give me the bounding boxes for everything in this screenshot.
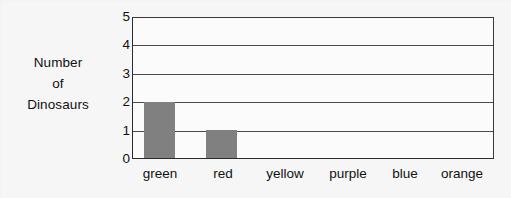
y-tick-label-1: 1 <box>106 124 130 138</box>
gridline-2 <box>133 102 493 103</box>
bar-red <box>206 130 237 158</box>
bar-green <box>144 102 175 158</box>
x-tick-label-red: red <box>188 166 258 181</box>
y-axis-title-line-2: of <box>6 73 110 94</box>
y-axis-title-line-1: Number <box>6 52 110 73</box>
y-tick-label-5: 5 <box>106 10 130 24</box>
y-axis-title: Number of Dinosaurs <box>6 52 110 115</box>
plot-area <box>132 17 494 159</box>
x-tick-label-yellow: yellow <box>250 166 320 181</box>
x-tick-label-orange: orange <box>427 166 497 181</box>
gridline-4 <box>133 45 493 46</box>
y-axis-title-line-3: Dinosaurs <box>6 94 110 115</box>
gridline-1 <box>133 131 493 132</box>
bar-chart-figure: Number of Dinosaurs 5 4 3 2 1 0 green re… <box>0 0 511 198</box>
y-tick-label-3: 3 <box>106 67 130 81</box>
y-tick-label-4: 4 <box>106 38 130 52</box>
x-tick-label-green: green <box>125 166 195 181</box>
y-tick-label-0: 0 <box>106 152 130 166</box>
gridline-3 <box>133 74 493 75</box>
y-tick-label-2: 2 <box>106 95 130 109</box>
